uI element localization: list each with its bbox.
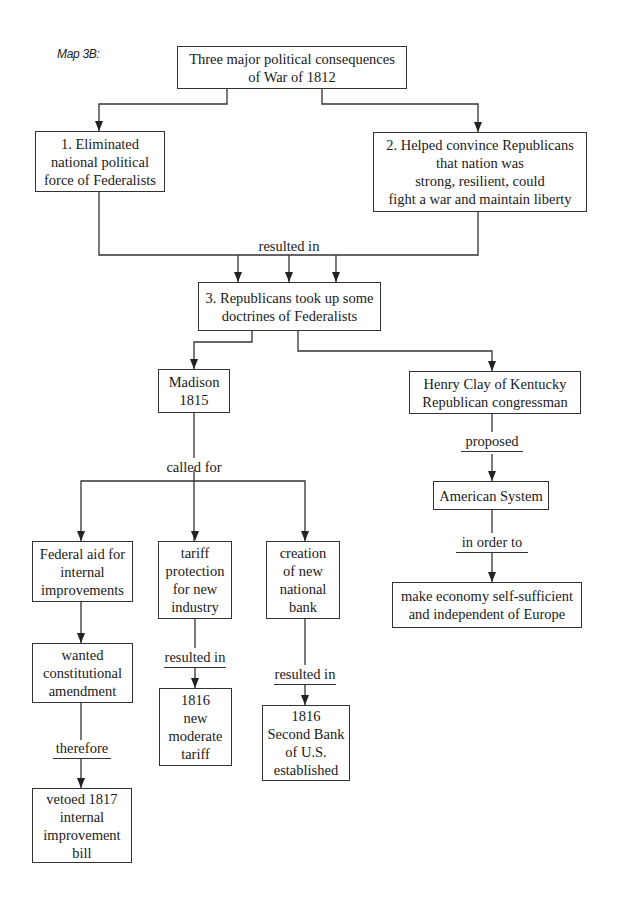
node-text: tariff	[166, 544, 225, 562]
node-tariff-protection: tariffprotectionfor newindustry	[158, 541, 232, 619]
node-text: Federal aid for	[40, 545, 125, 563]
node-text: of U.S.	[268, 743, 345, 761]
node-text: 2. Helped convince Republicans	[386, 136, 574, 154]
node-text: force of Federalists	[44, 171, 156, 189]
node-text: amendment	[43, 682, 122, 700]
link-called-for: called for	[154, 459, 234, 475]
node-text: moderate	[169, 727, 223, 745]
node-text: industry	[166, 598, 225, 616]
node-text: protection	[166, 562, 225, 580]
node-tariff-1816: 1816newmoderatetariff	[159, 688, 232, 766]
node-economy: make economy self-sufficientand independ…	[392, 582, 582, 628]
node-text: national political	[44, 153, 156, 171]
node-text: Henry Clay of Kentucky	[422, 375, 567, 393]
node-national-bank: creationof newnationalbank	[266, 541, 340, 619]
node-federal-aid: Federal aid forinternalimprovements	[32, 541, 133, 602]
node-text: constitutional	[43, 664, 122, 682]
node-text: Three major political consequences	[189, 50, 395, 68]
node-text: 1816	[169, 691, 223, 709]
node-text: and independent of Europe	[401, 605, 573, 623]
node-text: 1816	[268, 707, 345, 725]
link-proposed: proposed	[461, 433, 523, 452]
node-text: new	[169, 709, 223, 727]
node-text: Republican congressman	[422, 393, 567, 411]
node-text: of new	[280, 562, 327, 580]
node-consequence-2: 2. Helped convince Republicansthat natio…	[373, 132, 587, 212]
node-text: established	[268, 761, 345, 779]
link-resulted-in-bank: resulted in	[274, 666, 336, 685]
node-text: bank	[280, 598, 327, 616]
node-text: for new	[166, 580, 225, 598]
node-second-bank: 1816Second Bankof U.S.established	[262, 705, 350, 781]
node-root: Three major political consequencesof War…	[177, 46, 407, 89]
node-text: fight a war and maintain liberty	[386, 190, 574, 208]
node-text: 1. Eliminated	[44, 135, 156, 153]
link-resulted-in-main: resulted in	[249, 238, 329, 254]
node-consequence-1: 1. Eliminatednational politicalforce of …	[35, 131, 165, 192]
node-text: Second Bank	[268, 725, 345, 743]
node-text: national	[280, 580, 327, 598]
node-text: bill	[43, 844, 120, 862]
node-text: American System	[439, 487, 543, 505]
node-text: that nation was	[386, 154, 574, 172]
node-wanted-amendment: wantedconstitutionalamendment	[32, 643, 133, 703]
node-text: improvement	[43, 826, 120, 844]
link-resulted-in-tariff: resulted in	[164, 649, 226, 668]
node-text: 3. Republicans took up some	[206, 289, 374, 307]
node-text: creation	[280, 544, 327, 562]
node-american-system: American System	[433, 481, 549, 510]
node-text: doctrines of Federalists	[206, 307, 374, 325]
node-text: improvements	[40, 581, 125, 599]
node-consequence-3: 3. Republicans took up somedoctrines of …	[198, 282, 381, 331]
node-text: internal	[43, 808, 120, 826]
node-text: strong, resilient, could	[386, 172, 574, 190]
node-text: wanted	[43, 646, 122, 664]
node-vetoed-bill: vetoed 1817internalimprovementbill	[32, 788, 132, 863]
node-madison: Madison1815	[158, 369, 230, 413]
node-text: of War of 1812	[189, 68, 395, 86]
node-text: tariff	[169, 745, 223, 763]
node-henry-clay: Henry Clay of KentuckyRepublican congres…	[409, 371, 581, 414]
node-text: vetoed 1817	[43, 790, 120, 808]
link-in-order-to: in order to	[456, 534, 528, 553]
node-text: Madison	[169, 373, 220, 391]
link-therefore: therefore	[53, 740, 111, 759]
node-text: internal	[40, 563, 125, 581]
node-text: make economy self-sufficient	[401, 587, 573, 605]
node-text: 1815	[169, 391, 220, 409]
